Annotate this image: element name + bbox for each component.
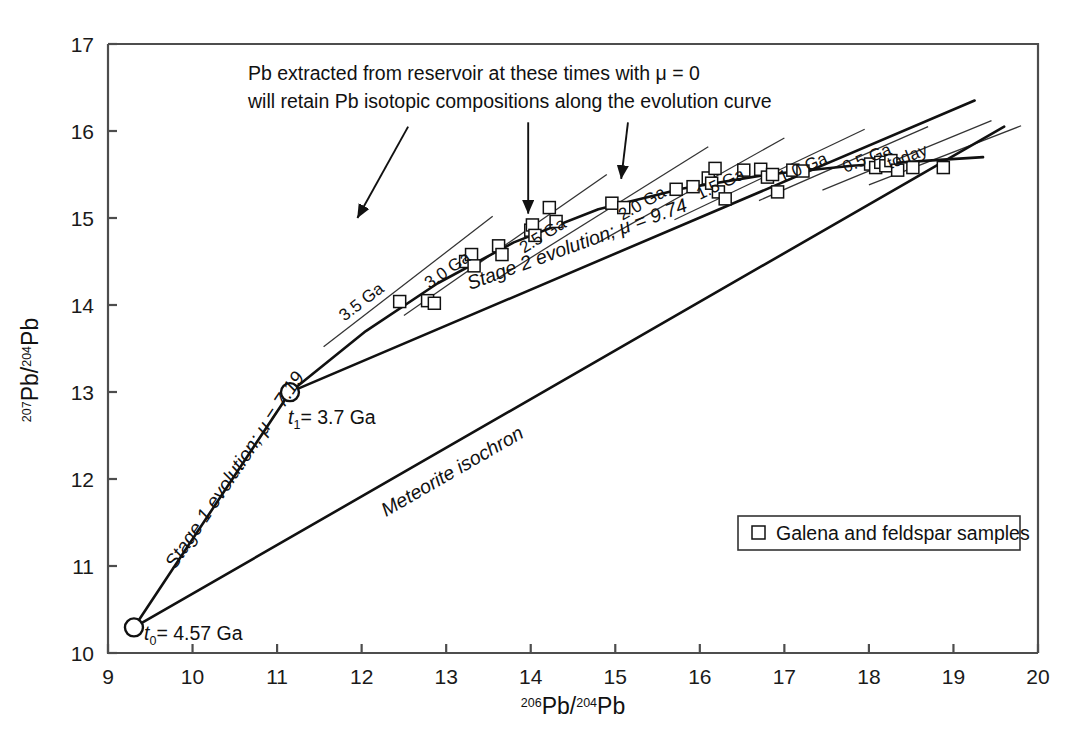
legend[interactable]: Galena and feldspar samples [738, 516, 1030, 550]
svg-text:206Pb/204Pb: 206Pb/204Pb [521, 693, 625, 719]
x-axis-title: 206Pb/204Pb [521, 693, 625, 719]
x-tick-label: 16 [688, 665, 711, 688]
t0-value: = 4.57 Ga [156, 622, 242, 644]
y-axis-pb-end: Pb [17, 318, 43, 346]
y-tick-label: 12 [71, 468, 94, 491]
stage-1-evolution-label: Stage 1 evolution; μ = 7.19 [160, 367, 308, 572]
svg-text:t1= 3.7 Ga: t1= 3.7 Ga [288, 406, 376, 432]
plot-canvas: 91011121314151617181920 1011121314151617… [0, 0, 1085, 752]
y-tick-label: 17 [71, 33, 94, 56]
sample-marker [719, 193, 731, 205]
t0-subscript: 0 [149, 634, 156, 648]
pb-isotope-evolution-figure: 91011121314151617181920 1011121314151617… [0, 0, 1085, 752]
meteorite-isochron [134, 127, 1004, 628]
y-axis-ticks [108, 44, 117, 653]
y-axis-tick-labels: 1011121314151617 [71, 33, 95, 665]
x-axis-tick-labels: 91011121314151617181920 [102, 665, 1050, 688]
y-tick-label: 15 [71, 207, 94, 230]
svg-text:207Pb/204Pb: 207Pb/204Pb [17, 318, 43, 422]
meteorite-isochron-label: Meteorite isochron [377, 421, 527, 520]
x-axis-ticks [108, 644, 1038, 653]
y-tick-label: 16 [71, 120, 94, 143]
arrow-to-3-5-ga [357, 127, 408, 218]
sample-marker [428, 297, 440, 309]
arrow-to-2-5-ga [621, 122, 628, 179]
y-tick-label: 14 [71, 294, 95, 317]
x-axis-pb-slash: Pb/ [542, 693, 577, 719]
y-axis-title: 207Pb/204Pb [17, 318, 43, 422]
sample-marker [394, 296, 406, 308]
x-tick-label: 13 [435, 665, 458, 688]
t1-node-label: t1= 3.7 Ga [288, 406, 376, 432]
caption-line-2: will retain Pb isotopic compositions alo… [247, 90, 772, 112]
y-tick-label: 11 [72, 555, 94, 578]
x-tick-label: 19 [942, 665, 965, 688]
caption-block: Pb extracted from reservoir at these tim… [247, 62, 772, 112]
x-tick-label: 17 [773, 665, 796, 688]
y-axis-sup-204: 204 [20, 346, 34, 367]
x-tick-label: 9 [102, 665, 114, 688]
x-axis-sup-204: 204 [576, 696, 597, 710]
x-tick-label: 14 [519, 665, 543, 688]
t1-value: = 3.7 Ga [300, 406, 375, 428]
x-tick-label: 12 [350, 665, 373, 688]
y-tick-label: 10 [71, 642, 94, 665]
sample-marker [772, 186, 784, 198]
secondary-growth-line [290, 101, 975, 393]
caption-arrows-group [357, 122, 628, 218]
x-tick-label: 15 [604, 665, 627, 688]
x-tick-label: 20 [1026, 665, 1049, 688]
x-tick-label: 18 [857, 665, 880, 688]
caption-line-1: Pb extracted from reservoir at these tim… [248, 62, 700, 84]
node-t0 [125, 618, 143, 636]
x-axis-pb-end: Pb [597, 693, 625, 719]
t1-subscript: 1 [293, 418, 300, 432]
legend-open-square-icon [752, 526, 765, 539]
svg-text:Stage 1 evolution; μ = 7.19: Stage 1 evolution; μ = 7.19 [160, 367, 308, 572]
sample-marker [709, 162, 721, 174]
y-axis-sup-207: 207 [20, 401, 34, 422]
sample-marker [937, 162, 949, 174]
y-tick-label: 13 [71, 381, 94, 404]
sample-marker [543, 202, 555, 214]
legend-label: Galena and feldspar samples [776, 522, 1030, 544]
x-tick-label: 11 [266, 665, 288, 688]
stage-2-evolution [290, 157, 983, 392]
svg-text:Meteorite isochron: Meteorite isochron [377, 421, 527, 520]
y-axis-pb-slash: Pb/ [17, 366, 43, 401]
x-axis-sup-206: 206 [521, 696, 542, 710]
x-tick-label: 10 [181, 665, 204, 688]
